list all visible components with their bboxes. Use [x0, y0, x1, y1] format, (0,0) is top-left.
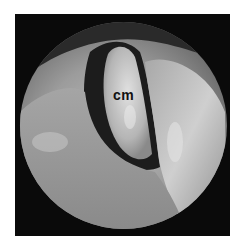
image-frame: cm: [15, 14, 230, 236]
tissue-illustration: [20, 22, 227, 229]
endoscope-view: [20, 22, 227, 229]
structure-label: cm: [113, 87, 134, 103]
